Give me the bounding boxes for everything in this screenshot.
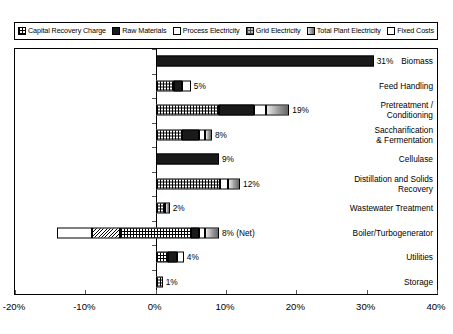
bar-value-label: 4% — [184, 252, 199, 262]
bar-segment — [156, 80, 174, 91]
bar-segment — [182, 129, 198, 140]
category-label: Utilities — [296, 245, 437, 270]
legend-item: Grid Electricity — [246, 27, 301, 35]
bar-segment — [156, 105, 219, 116]
category-label-line: Feed Handling — [379, 81, 433, 91]
plot-area: Biomass31%Feed Handling5%Pretreatment /C… — [14, 48, 438, 295]
stacked-bar — [156, 56, 374, 67]
category-tick-mark — [152, 245, 156, 246]
bar-segment — [205, 129, 212, 140]
legend-item-label: Fixed Costs — [397, 27, 434, 35]
category-label-line: Cellulase — [399, 154, 433, 164]
legend-item-label: Grid Electricity — [256, 27, 301, 35]
category-tick-mark — [152, 196, 156, 197]
chart-bar-row: Feed Handling5% — [15, 74, 437, 99]
bar-segment — [120, 227, 190, 238]
legend-item-label: Raw Materials — [122, 27, 166, 35]
category-label: Storage — [296, 270, 437, 295]
bar-value-label: 12% — [240, 179, 260, 189]
x-tick-mark — [437, 290, 438, 294]
category-tick-mark — [152, 221, 156, 222]
bar-segment — [156, 154, 219, 165]
category-label-line: Recovery — [398, 184, 433, 194]
category-label: Distillation and SolidsRecovery — [296, 172, 437, 197]
category-tick-mark — [152, 123, 156, 124]
category-label-line: Utilities — [406, 252, 433, 262]
chart-bar-row: Wastewater Treatment2% — [15, 196, 437, 221]
legend-item: Total Plant Electricity — [307, 27, 381, 35]
bar-value-label: 31% — [374, 56, 394, 66]
category-tick-mark — [152, 74, 156, 75]
category-label: Cellulase — [296, 147, 437, 172]
bar-segment — [156, 252, 168, 263]
bar-segment — [156, 276, 163, 287]
category-tick-mark — [152, 147, 156, 148]
chart-bar-row: Storage1% — [15, 270, 437, 295]
legend-item: Raw Materials — [112, 27, 166, 35]
stacked-bar — [57, 227, 219, 238]
stacked-bar — [156, 154, 219, 165]
category-label: Saccharification& Fermentation — [296, 123, 437, 148]
legend-item: Fixed Costs — [387, 27, 434, 35]
checker-swatch-icon — [18, 27, 26, 35]
x-axis-label: 30% — [356, 301, 375, 312]
category-tick-mark — [152, 49, 156, 50]
category-label-line: & Fermentation — [376, 135, 433, 145]
stacked-bar — [156, 178, 240, 189]
legend-item: Process Electricity — [173, 27, 240, 35]
bold-checker-swatch-icon — [387, 27, 395, 35]
chart-screenshot: Capital Recovery ChargeRaw MaterialsProc… — [0, 0, 453, 334]
category-label: Boiler/Turbogenerator — [296, 221, 437, 246]
x-axis-label: 10% — [215, 301, 234, 312]
chart-bar-row: Utilities4% — [15, 245, 437, 270]
stacked-bar — [156, 129, 212, 140]
gray-checker-swatch-icon — [246, 27, 254, 35]
x-axis-label: -10% — [73, 301, 95, 312]
category-tick-mark — [152, 172, 156, 173]
x-axis-label: 40% — [426, 301, 445, 312]
bar-segment — [219, 105, 254, 116]
bar-segment — [156, 129, 183, 140]
bar-segment — [220, 178, 228, 189]
chart-bar-row: Biomass31% — [15, 49, 437, 74]
category-label-line: Saccharification — [374, 125, 433, 135]
category-label-line: Wastewater Treatment — [350, 203, 433, 213]
bar-segment — [57, 227, 92, 238]
bar-segment — [156, 203, 165, 214]
bar-segment — [191, 227, 199, 238]
bar-segment — [228, 178, 240, 189]
category-label-line: Conditioning — [387, 110, 433, 120]
category-label: Pretreatment /Conditioning — [296, 98, 437, 123]
bar-segment — [205, 227, 219, 238]
legend-item-label: Process Electricity — [183, 27, 240, 35]
stacked-bar — [156, 203, 170, 214]
category-label-line: Distillation and Solids — [354, 174, 433, 184]
legend-item: Capital Recovery Charge — [18, 27, 106, 35]
bar-value-label: 19% — [289, 105, 309, 115]
chart-bar-row: Saccharification& Fermentation8% — [15, 123, 437, 148]
bar-value-label: 8% — [212, 130, 227, 140]
solid-black-swatch-icon — [112, 27, 120, 35]
category-tick-mark — [152, 98, 156, 99]
x-axis-label: 0% — [148, 301, 162, 312]
bar-segment — [177, 252, 184, 263]
chart-bar-row: Boiler/Turbogenerator8% (Net) — [15, 221, 437, 246]
bar-segment — [156, 178, 221, 189]
bar-segment — [156, 56, 374, 67]
chart-bar-row: Distillation and SolidsRecovery12% — [15, 172, 437, 197]
bar-value-label: 2% — [170, 203, 185, 213]
bar-segment — [182, 80, 190, 91]
bar-value-label: 1% — [163, 277, 178, 287]
bar-segment — [174, 80, 182, 91]
category-label-line: Biomass — [401, 56, 433, 66]
category-label: Wastewater Treatment — [296, 196, 437, 221]
stacked-bar — [156, 105, 290, 116]
x-axis: -20%-10%0%10%20%30%40% — [14, 295, 438, 317]
bar-value-label: 5% — [191, 81, 206, 91]
bar-segment — [254, 105, 266, 116]
category-label-line: Storage — [404, 277, 433, 287]
stacked-bar — [156, 80, 191, 91]
bar-segment — [92, 227, 120, 238]
bar-value-label: 9% — [219, 154, 234, 164]
stacked-bar — [156, 276, 163, 287]
